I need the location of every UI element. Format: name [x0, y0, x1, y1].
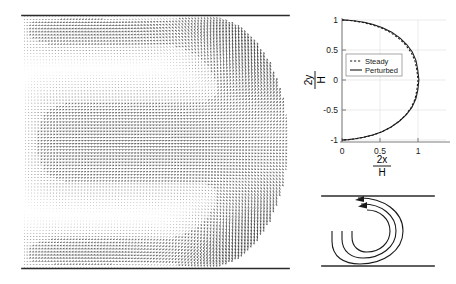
y-axis-label: 2y H — [303, 71, 327, 89]
streamline-inner — [352, 210, 390, 252]
legend-label-steady: Steady — [365, 57, 389, 66]
flow-schematic-panel — [300, 185, 456, 284]
y-tick-label-0: 0 — [333, 75, 338, 85]
x-axis-label-denominator: H — [378, 167, 385, 178]
y-tick-label-neg0p5: -0.5 — [323, 105, 338, 115]
x-tick-label-1: 1 — [416, 146, 421, 156]
y-axis-label-denominator: H — [316, 76, 327, 83]
velocity-vector-field-svg — [0, 0, 300, 284]
x-axis-label-numerator: 2x — [377, 154, 388, 165]
free-surface-plot-svg: 1 0.5 0 -0.5 -1 0 0.5 1 Steady — [300, 0, 456, 185]
streamline-middle — [342, 204, 396, 258]
streamline-outer — [332, 198, 403, 264]
legend-label-perturbed: Perturbed — [365, 66, 398, 75]
y-tick-label-1: 1 — [333, 15, 338, 25]
x-tick-label-0: 0 — [340, 146, 345, 156]
plot-grid — [342, 20, 446, 140]
plot-legend: Steady Perturbed — [346, 54, 402, 76]
free-surface-shape-panel: 1 0.5 0 -0.5 -1 0 0.5 1 Steady — [300, 0, 456, 185]
y-tick-label-neg1: -1 — [330, 135, 338, 145]
velocity-vector-field-panel — [0, 0, 300, 284]
flow-arrowhead-middle — [358, 202, 367, 209]
x-axis-label: 2x H — [373, 154, 391, 178]
flow-arrowhead-outer — [355, 196, 364, 202]
vector-arrow-grid — [24, 16, 288, 269]
flow-schematic-svg — [300, 185, 456, 284]
y-axis-label-numerator: 2y — [303, 75, 314, 86]
y-axis-ticks — [342, 20, 346, 140]
figure-root: 1 0.5 0 -0.5 -1 0 0.5 1 Steady — [0, 0, 456, 284]
y-tick-label-0p5: 0.5 — [326, 45, 338, 55]
